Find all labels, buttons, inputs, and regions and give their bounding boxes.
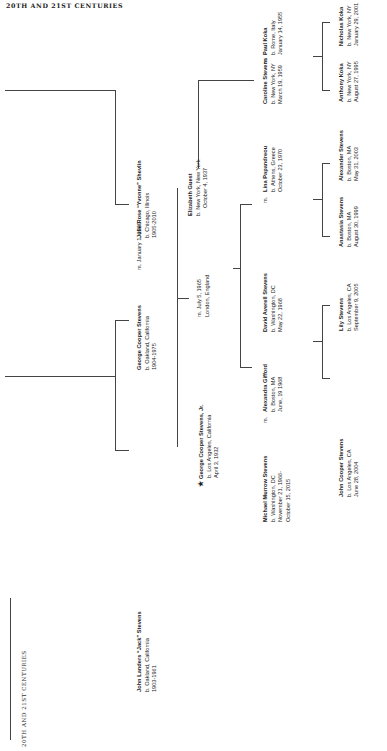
connector bbox=[5, 376, 115, 377]
connector bbox=[322, 305, 323, 379]
connector bbox=[115, 204, 129, 205]
person-name: John Landers “Jack” Stevens bbox=[136, 611, 144, 692]
person-alexander-stevens: Alexander Stevens b. Boston, MA May 31, … bbox=[338, 130, 361, 181]
person-birth: b. New York, NY bbox=[346, 3, 354, 46]
person-name: Alexandra Gifford bbox=[262, 364, 270, 412]
connector bbox=[177, 188, 178, 447]
person-dates: October 4, 1937 bbox=[202, 159, 210, 216]
person-name: George Cooper Stevens bbox=[136, 305, 144, 370]
person-john-cooper-stevens: John Cooper Stevens b. Los Angeles, CA J… bbox=[338, 439, 361, 497]
person-name: Anastasia Stevens bbox=[338, 197, 346, 247]
person-name: Paul Koka bbox=[262, 12, 270, 55]
person-dates: May 22, 1968 bbox=[277, 273, 285, 332]
person-dates: May 31, 2003 bbox=[353, 130, 361, 181]
connector bbox=[177, 298, 189, 299]
person-dates: November 21, 1966- bbox=[277, 456, 285, 522]
person-birth: b. Los Angeles, CA bbox=[346, 283, 354, 331]
connector bbox=[240, 204, 252, 205]
person-dates: April 3, 1932 bbox=[213, 404, 221, 487]
person-birth: b. Rome, Italy bbox=[270, 12, 278, 55]
person-name: Alexander Stevens bbox=[338, 130, 346, 181]
person-name: Elizabeth Guest bbox=[187, 159, 195, 216]
running-head: 20TH AND 21ST CENTURIES bbox=[6, 2, 123, 9]
person-name: Lina Papandreou bbox=[262, 146, 270, 192]
marriage-michael: m. bbox=[262, 417, 270, 423]
person-caroline-stevens: Caroline Stevens b. New York, NY March 1… bbox=[262, 58, 285, 104]
marriage-1965: m. July 5, 1965 London, England bbox=[196, 275, 211, 317]
person-nicholas-koka: Nicholas Koka b. New York, NY January 29… bbox=[338, 3, 361, 46]
person-birth: b. New York, New York bbox=[195, 159, 203, 216]
person-birth: b. New York, NY bbox=[270, 58, 278, 104]
person-lily-stevens: Lily Stevens b. Los Angeles, CA Septembe… bbox=[338, 283, 361, 331]
person-dates: October 15, 2015 bbox=[285, 456, 293, 522]
person-birth: b. Boston, MA bbox=[346, 197, 354, 247]
person-george-cooper-stevens: George Cooper Stevens b. Oakland, Califo… bbox=[136, 305, 159, 370]
connector bbox=[115, 90, 116, 205]
connector bbox=[322, 236, 330, 237]
person-name: Caroline Stevens bbox=[262, 58, 270, 104]
person-dates: September 9, 2005 bbox=[353, 283, 361, 331]
person-birth: b. New York, NY bbox=[346, 61, 354, 102]
person-dates: August 27, 1995 bbox=[353, 61, 361, 102]
connector bbox=[322, 163, 323, 237]
person-dates: 1904-1975 bbox=[151, 305, 159, 370]
marriage-date: m. July 5, 1965 bbox=[196, 275, 204, 317]
person-anthony-koka: Anthony Koka b. New York, NY August 27, … bbox=[338, 61, 361, 102]
person-birth: b. Los Angeles, CA bbox=[346, 439, 354, 497]
person-alexandra-gifford: Alexandra Gifford b. Boston, MA June, 19… bbox=[262, 364, 285, 412]
person-name: George Cooper Stevens, Jr. bbox=[198, 404, 204, 479]
marriage-place: London, England bbox=[204, 275, 212, 317]
person-birth: b. Washington, DC bbox=[270, 273, 278, 332]
person-name: Anthony Koka bbox=[338, 61, 346, 102]
person-name: David Averell Stevens bbox=[262, 273, 270, 332]
person-birth: b. Boston, MA bbox=[346, 130, 354, 181]
person-birth: b. Chicago, Illinois bbox=[144, 160, 152, 238]
connector bbox=[115, 320, 116, 450]
person-dates: January 14, 1955 bbox=[277, 12, 285, 55]
person-george-cooper-stevens-jr: ★George Cooper Stevens, Jr. b. Los Angel… bbox=[197, 404, 221, 487]
person-birth: b. Los Angeles, California bbox=[206, 404, 214, 487]
marriage-david: m. bbox=[262, 197, 270, 203]
person-julie-rose-shevlin: Julie Rose “Yvonne” Shevlin b. Chicago, … bbox=[136, 160, 159, 238]
person-birth: b. Washington, DC bbox=[270, 456, 278, 522]
connector bbox=[313, 199, 322, 200]
marriage-caroline: m. bbox=[262, 58, 270, 64]
connector bbox=[115, 450, 129, 451]
person-dates: 1903-1961 bbox=[151, 611, 159, 692]
side-head: 20TH AND 21ST CENTURIES bbox=[21, 650, 27, 747]
connector bbox=[198, 80, 254, 81]
person-birth: b. Oakland, California bbox=[144, 611, 152, 692]
person-dates: 1905-2010 bbox=[151, 160, 159, 238]
connector bbox=[322, 305, 330, 306]
connector bbox=[240, 367, 252, 368]
person-dates: March 19, 1959 bbox=[277, 58, 285, 104]
connector bbox=[5, 90, 115, 91]
person-birth: b. Oakland, California bbox=[144, 305, 152, 370]
person-paul-koka: Paul Koka b. Rome, Italy January 14, 195… bbox=[262, 12, 285, 55]
person-birth: b. Athens, Greece bbox=[270, 146, 278, 192]
person-name: Nicholas Koka bbox=[338, 3, 346, 46]
star-icon: ★ bbox=[197, 481, 204, 487]
person-dates: June, 19 1968 bbox=[277, 364, 285, 412]
connector bbox=[313, 56, 322, 57]
connector bbox=[233, 268, 241, 269]
connector bbox=[322, 22, 330, 23]
person-john-landers-stevens: John Landers “Jack” Stevens b. Oakland, … bbox=[136, 611, 159, 692]
person-dates: August 30, 1999 bbox=[353, 197, 361, 247]
person-anastasia-stevens: Anastasia Stevens b. Boston, MA August 3… bbox=[338, 197, 361, 247]
person-lina-papandreou: Lina Papandreou b. Athens, Greece Octobe… bbox=[262, 146, 285, 192]
person-name: Michael Murrow Stevens bbox=[262, 456, 270, 522]
person-dates: June 28, 2004 bbox=[353, 439, 361, 497]
person-michael-murrow-stevens: Michael Murrow Stevens b. Washington, DC… bbox=[262, 456, 292, 522]
connector bbox=[198, 80, 199, 168]
person-name: Julie Rose “Yvonne” Shevlin bbox=[136, 160, 144, 238]
person-dates: January 29, 2001 bbox=[353, 3, 361, 46]
person-name: John Cooper Stevens bbox=[338, 439, 346, 497]
connector bbox=[240, 204, 241, 368]
connector bbox=[322, 22, 323, 91]
person-birth: b. Boston, MA bbox=[270, 364, 278, 412]
connector bbox=[322, 378, 330, 379]
connector bbox=[115, 320, 129, 321]
connector bbox=[322, 163, 330, 164]
person-name: Lily Stevens bbox=[338, 283, 346, 331]
